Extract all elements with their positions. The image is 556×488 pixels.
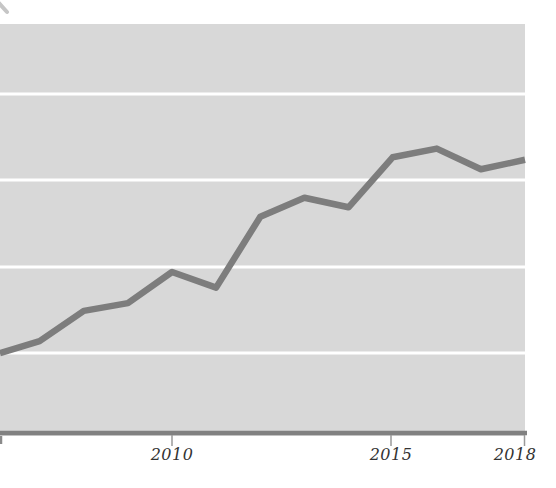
x-tick-label: 2015: [370, 447, 413, 463]
line-chart: [0, 0, 556, 488]
x-tick-label: 2018: [494, 447, 537, 463]
chart-canvas: 201020152018: [0, 0, 556, 488]
plot-area: [0, 24, 525, 436]
crop-artifact-mark: [0, 2, 7, 12]
x-tick-label: 2010: [151, 447, 194, 463]
